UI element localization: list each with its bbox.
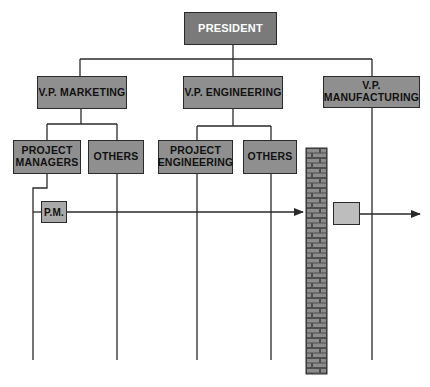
pm-label: P.M.	[44, 207, 64, 218]
project-managers-box: PROJECT MANAGERS	[13, 140, 81, 174]
others-marketing-label: OTHERS	[94, 151, 139, 163]
org-chart-diagram: PRESIDENT V.P. MARKETING V.P. ENGINEERIN…	[0, 0, 430, 387]
project-engineering-label-line2: ENGINEERING	[158, 157, 234, 169]
vp-manufacturing-box: V.P. MANUFACTURING	[323, 76, 420, 108]
vp-engineering-label: V.P. ENGINEERING	[184, 87, 281, 99]
others-marketing-box: OTHERS	[88, 140, 144, 174]
vp-marketing-label: V.P. MARKETING	[39, 87, 126, 99]
project-engineering-box: PROJECT ENGINEERING	[158, 140, 233, 174]
project-managers-label-line2: MANAGERS	[16, 157, 79, 169]
handoff-box	[333, 202, 360, 225]
president-label: PRESIDENT	[198, 22, 263, 34]
vp-engineering-box: V.P. ENGINEERING	[183, 76, 283, 109]
connector-lines	[0, 0, 430, 387]
brick-wall	[306, 148, 327, 374]
vp-manufacturing-label-line2: MANUFACTURING	[324, 92, 419, 104]
pm-box: P.M.	[41, 201, 67, 223]
others-engineering-box: OTHERS	[243, 140, 297, 174]
others-engineering-label: OTHERS	[248, 151, 293, 163]
vp-marketing-box: V.P. MARKETING	[37, 76, 127, 109]
president-box: PRESIDENT	[184, 12, 277, 45]
